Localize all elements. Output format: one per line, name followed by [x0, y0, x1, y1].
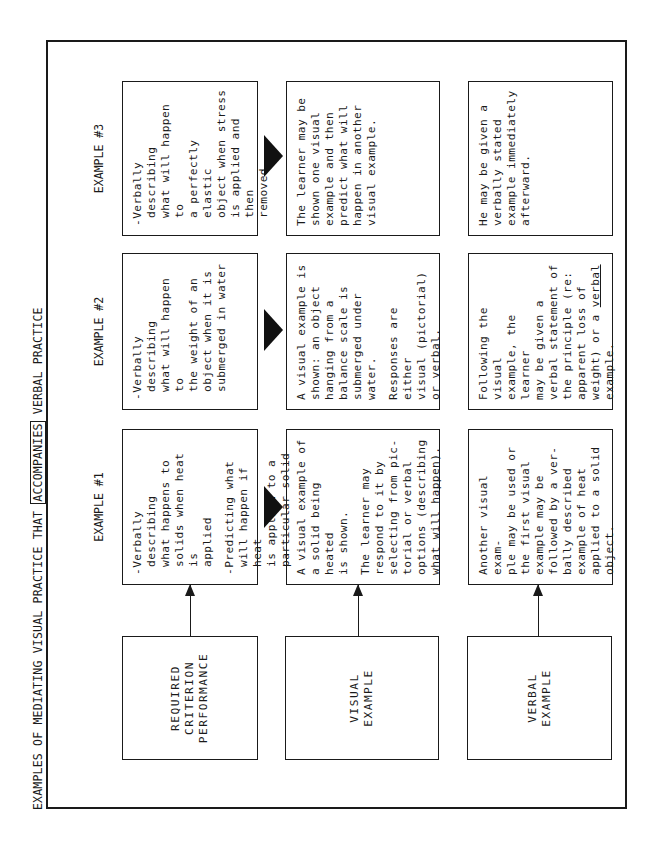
cell-text: Another visual exam- ple may be used or … — [477, 436, 617, 575]
cell-text: -Verbally describing what will happen to… — [131, 260, 229, 400]
cell-visual-example-3: The learner may be shown one visual exam… — [286, 81, 440, 236]
cell-text: A visual example of a solid being heated… — [295, 436, 351, 575]
cell-text: He may be given a verbally stated exampl… — [477, 88, 533, 226]
cell-visual-example-1: A visual example of a solid being heated… — [286, 429, 440, 585]
cell-text: The learner may be shown one visual exam… — [295, 88, 379, 226]
cell-text: Responses are either visual (pictorial) … — [387, 260, 443, 400]
header-example-3: EXAMPLE #3 — [92, 81, 106, 236]
title-text-start: EXAMPLES OF MEDIATING VISUAL PRACTICE TH… — [31, 504, 45, 810]
title-boxed-word: ACCOMPANIES — [30, 421, 46, 503]
cell-verbal-example-1: Another visual exam- ple may be used or … — [468, 429, 613, 585]
title-text-end: VERBAL PRACTICE — [31, 307, 45, 421]
cell-verbal-example-3: He may be given a verbally stated exampl… — [468, 81, 613, 236]
cell-criterion-example-1: -Verbally describing what happens to sol… — [122, 429, 258, 585]
cell-verbal-example-2: Following the visual example, the learne… — [468, 253, 613, 410]
connector-arrow-verbal — [538, 585, 539, 636]
diagram-title: EXAMPLES OF MEDIATING VISUAL PRACTICE TH… — [31, 307, 45, 810]
label-visual-example: VISUAL EXAMPLE — [285, 636, 439, 760]
cell-criterion-example-3: -Verbally describing what will happen to… — [122, 81, 258, 236]
label-required-criterion-performance: REQUIRED CRITERION PERFORMANCE — [122, 636, 258, 760]
cell-text: -Verbally describing what happens to sol… — [131, 436, 215, 575]
header-example-2: EXAMPLE #2 — [92, 253, 106, 410]
cell-text-part: Following the visual example, the learne… — [477, 264, 602, 400]
connector-arrow-criterion — [190, 585, 191, 636]
cell-visual-example-2: A visual example is shown: an object han… — [286, 253, 440, 410]
diagram-canvas: EXAMPLES OF MEDIATING VISUAL PRACTICE TH… — [0, 0, 662, 846]
cell-text: Following the visual example, the learne… — [477, 260, 617, 400]
cell-text: -Verbally describing what will happen to… — [131, 88, 271, 226]
cell-text: A visual example is shown: an object han… — [295, 260, 379, 400]
down-triangle-icon — [264, 486, 283, 528]
down-triangle-icon — [264, 135, 283, 177]
header-example-1: EXAMPLE #1 — [92, 429, 106, 585]
cell-text-part: example. — [603, 343, 616, 400]
connector-arrow-visual — [358, 585, 359, 636]
down-triangle-icon — [264, 309, 283, 351]
underlined-word: verbal — [589, 264, 602, 307]
cell-text: The learner may respond to it by selecti… — [359, 436, 443, 575]
cell-criterion-example-2: -Verbally describing what will happen to… — [122, 253, 258, 410]
label-verbal-example: VERBAL EXAMPLE — [467, 636, 612, 760]
